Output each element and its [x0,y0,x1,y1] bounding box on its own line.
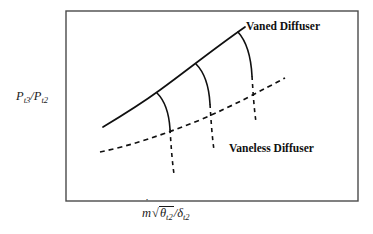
vaneless-diffuser-label: Vaneless Diffuser [229,143,314,155]
vaned-speed-line-3 [238,32,252,76]
x-axis-label: m√θt2/δt2 [142,206,190,220]
vaned-diffuser-label: Vaned Diffuser [246,21,320,33]
figure-canvas: Pt3/Pt2 m√θt2/δt2 Vaned Diffuser Vaneles… [0,0,373,234]
vaneless-speed-line-3 [252,76,256,122]
y-axis-denominator-subscript: t2 [41,95,48,105]
vaneless-speed-line-2 [210,104,214,150]
vaneless-diffuser-curve [100,78,285,152]
sqrt-icon: √θt2 [151,206,174,220]
y-axis-numerator-subscript: t3 [24,95,31,105]
plot-frame [66,11,358,201]
x-axis-massflow-symbol: m [142,207,151,220]
x-axis-delta-subscript: t2 [183,212,190,222]
vaned-speed-line-1 [157,93,170,129]
vaned-diffuser-curve [103,27,245,127]
y-axis-numerator-symbol: P [16,89,24,103]
x-axis-theta-subscript: t2 [166,212,173,222]
plot-area [0,0,373,234]
y-axis-label: Pt3/Pt2 [16,90,48,103]
vaneless-speed-line-1 [170,129,174,174]
vaned-speed-line-2 [196,64,210,104]
